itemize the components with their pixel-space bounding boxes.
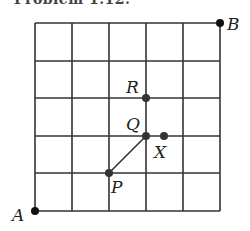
point-a bbox=[31, 207, 39, 215]
label-p: P bbox=[110, 177, 123, 197]
point-x bbox=[160, 132, 168, 140]
point-r bbox=[142, 94, 150, 102]
label-b: B bbox=[226, 14, 240, 34]
label-x: X bbox=[152, 142, 167, 162]
point-q bbox=[142, 132, 150, 140]
point-p bbox=[105, 169, 113, 177]
point-b bbox=[216, 19, 224, 27]
label-q: Q bbox=[126, 114, 140, 134]
label-r: R bbox=[125, 77, 139, 97]
segment-p-q bbox=[109, 136, 146, 173]
grid-diagram: A B P Q R X bbox=[0, 0, 250, 231]
label-a: A bbox=[10, 205, 24, 225]
